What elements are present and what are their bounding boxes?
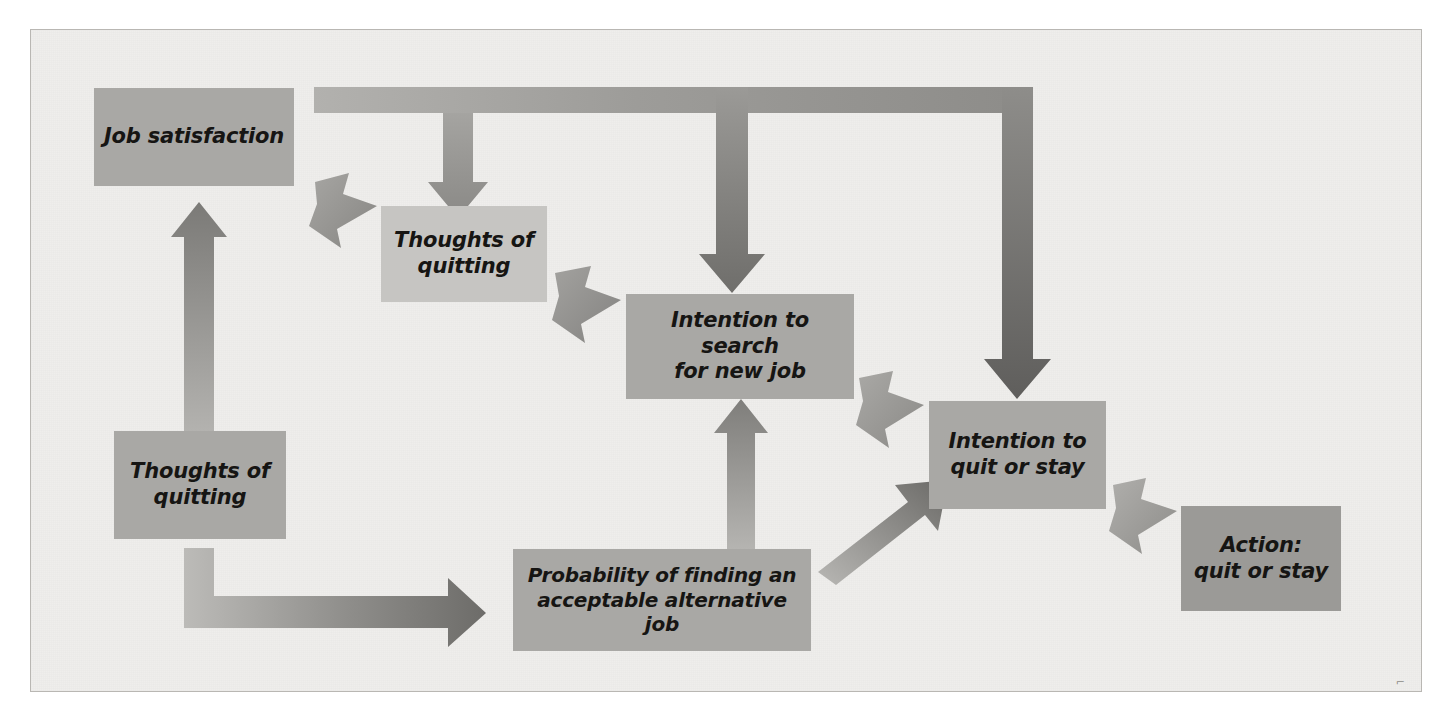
edge-probability-to-intention-search: [714, 399, 768, 549]
edge-thoughts-bottom-to-probability: [184, 548, 486, 647]
node-intention-to-search[interactable]: Intention to searchfor new job: [626, 294, 854, 399]
node-action-quit-or-stay[interactable]: Action:quit or stay: [1181, 506, 1341, 611]
edge-intention-quit-to-action: [1109, 478, 1177, 554]
node-thoughts-of-quitting-top[interactable]: Thoughts ofquitting: [381, 206, 547, 302]
node-thoughts-of-quitting-bottom[interactable]: Thoughts ofquitting: [114, 431, 286, 539]
node-job-satisfaction[interactable]: Job satisfaction: [94, 88, 294, 186]
edge-thoughts-to-job-satisfaction: [171, 202, 227, 431]
diagram-frame: Job satisfaction Thoughts ofquitting Int…: [30, 29, 1422, 692]
corner-mark: ⌐: [1396, 676, 1405, 689]
edge-intention-search-to-intention-quit: [856, 371, 924, 448]
node-probability-of-finding-job[interactable]: Probability of finding anacceptable alte…: [513, 549, 811, 651]
edge-thoughts-top-to-intention-search: [552, 266, 621, 343]
diagram-canvas: Job satisfaction Thoughts ofquitting Int…: [0, 0, 1453, 721]
node-intention-to-quit-or-stay[interactable]: Intention toquit or stay: [929, 401, 1106, 509]
edge-job-satisfaction-to-thoughts-top: [309, 173, 377, 248]
